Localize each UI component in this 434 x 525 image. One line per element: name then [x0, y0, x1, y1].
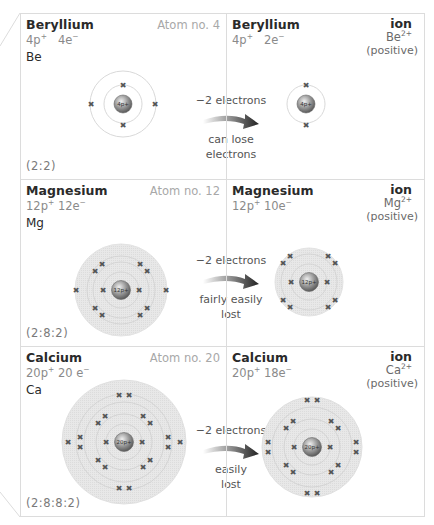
svg-text:✖: ✖ — [102, 412, 109, 421]
svg-text:✖: ✖ — [165, 443, 172, 452]
bohr-model-atom: 20p+ ✖ ✖ ✖ ✖ ✖ ✖ ✖ ✖ ✖ ✖ ✖ ✖ — [59, 377, 189, 507]
bohr-model-ion: 12p+ ✖ ✖ ✖ ✖ ✖ ✖ ✖ ✖ ✖ ✖ — [269, 242, 349, 322]
ion-symbol: Mg2+ — [366, 197, 418, 210]
svg-text:✖: ✖ — [283, 461, 290, 470]
ion-charge-type: (positive) — [366, 211, 418, 224]
svg-text:12p+: 12p+ — [301, 279, 316, 286]
proton-count: 12p — [26, 199, 48, 213]
svg-text:4p+: 4p+ — [300, 101, 312, 108]
svg-text:✖: ✖ — [144, 267, 151, 276]
svg-text:✖: ✖ — [77, 433, 84, 442]
ion-charge-type: (positive) — [366, 378, 418, 391]
electron-charge: − — [278, 32, 284, 41]
ion-element-symbol: Mg — [384, 196, 401, 210]
svg-text:✖: ✖ — [77, 443, 84, 452]
electron-count: 12e — [58, 199, 80, 213]
svg-text:✖: ✖ — [290, 417, 297, 426]
bohr-model-atom: 4p+ ✖ ✖ ✖ ✖ — [73, 69, 173, 139]
electron-count: 10e — [264, 199, 286, 213]
electron-charge: − — [80, 198, 86, 207]
svg-text:✖: ✖ — [116, 391, 123, 400]
svg-text:✖: ✖ — [303, 81, 310, 90]
svg-text:✖: ✖ — [280, 259, 287, 268]
svg-text:✖: ✖ — [116, 484, 123, 493]
svg-text:✖: ✖ — [304, 396, 311, 405]
svg-text:✖: ✖ — [100, 286, 107, 295]
element-name: Calcium — [232, 350, 288, 365]
svg-text:✖: ✖ — [335, 424, 342, 433]
proton-count: 4p — [26, 33, 41, 47]
ion-info: ion Be2+ (positive) — [366, 17, 418, 57]
svg-text:✖: ✖ — [283, 424, 290, 433]
svg-text:✖: ✖ — [353, 448, 360, 457]
proton-count: 20p — [26, 366, 48, 380]
particle-counts: 4p+ 2e− — [232, 33, 285, 47]
comparison-table: Beryllium Atom no. 4 4p+ 4e− Be (2:2) 4p… — [20, 13, 425, 517]
ion-charge-type: (positive) — [366, 45, 418, 58]
proton-count: 12p — [232, 199, 254, 213]
svg-text:✖: ✖ — [139, 438, 146, 447]
electron-configuration: (2:2) — [26, 159, 56, 173]
proton-charge: + — [48, 365, 54, 374]
svg-text:✖: ✖ — [92, 304, 99, 313]
svg-text:✖: ✖ — [88, 100, 95, 109]
svg-text:✖: ✖ — [324, 278, 331, 287]
svg-text:✖: ✖ — [136, 286, 143, 295]
svg-text:✖: ✖ — [177, 438, 184, 447]
svg-text:✖: ✖ — [303, 121, 310, 130]
electron-charge: − — [83, 365, 89, 374]
proton-charge: + — [254, 198, 260, 207]
svg-text:✖: ✖ — [304, 489, 311, 498]
element-name: Calcium — [26, 350, 82, 365]
element-symbol: Mg — [26, 216, 44, 230]
svg-text:✖: ✖ — [103, 438, 110, 447]
ion-charge: 2+ — [401, 195, 412, 204]
electron-charge: − — [286, 365, 292, 374]
ion-cell-magnesium: Magnesium 12p+ 10e− ion Mg2+ (positive) … — [226, 179, 424, 346]
svg-text:✖: ✖ — [140, 463, 147, 472]
svg-text:✖: ✖ — [335, 461, 342, 470]
svg-text:✖: ✖ — [314, 489, 321, 498]
bohr-model-ion: 20p+ ✖ ✖ ✖ ✖ ✖ ✖ ✖ ✖ ✖ ✖ ✖ ✖ ✖ ✖ ✖ — [257, 392, 367, 502]
svg-text:✖: ✖ — [265, 438, 272, 447]
svg-text:✖: ✖ — [92, 267, 99, 276]
svg-text:✖: ✖ — [126, 391, 133, 400]
electron-count: 4e — [58, 33, 72, 47]
element-name: Beryllium — [232, 17, 300, 32]
svg-text:✖: ✖ — [328, 417, 335, 426]
svg-text:✖: ✖ — [95, 456, 102, 465]
atom-number: Atom no. 4 — [157, 18, 220, 32]
svg-text:✖: ✖ — [325, 303, 332, 312]
ion-cell-beryllium: Beryllium 4p+ 2e− ion Be2+ (positive) 4p… — [226, 14, 424, 179]
ion-element-symbol: Be — [386, 30, 401, 44]
svg-text:✖: ✖ — [73, 286, 80, 295]
svg-text:✖: ✖ — [120, 121, 127, 130]
svg-text:✖: ✖ — [137, 311, 144, 320]
particle-counts: 12p+ 10e− — [232, 199, 292, 213]
svg-text:✖: ✖ — [327, 443, 334, 452]
ion-cell-calcium: Calcium 20p+ 18e− ion Ca2+ (positive) 20… — [226, 346, 424, 516]
proton-count: 4p — [232, 33, 247, 47]
svg-text:20p+: 20p+ — [304, 444, 319, 451]
element-symbol: Ca — [26, 383, 42, 397]
proton-charge: + — [247, 32, 253, 41]
svg-text:✖: ✖ — [280, 296, 287, 305]
svg-text:✖: ✖ — [140, 412, 147, 421]
svg-text:✖: ✖ — [287, 252, 294, 261]
electron-charge: − — [72, 32, 78, 41]
bohr-model-atom: 12p+ ✖ ✖ ✖ ✖ ✖ ✖ ✖ ✖ ✖ ✖ ✖ ✖ — [66, 235, 176, 345]
svg-text:✖: ✖ — [325, 252, 332, 261]
proton-charge: + — [48, 198, 54, 207]
svg-text:✖: ✖ — [137, 260, 144, 269]
svg-text:✖: ✖ — [126, 484, 133, 493]
svg-text:✖: ✖ — [265, 448, 272, 457]
ion-charge: 2+ — [401, 362, 412, 371]
svg-text:✖: ✖ — [95, 419, 102, 428]
particle-counts: 12p+ 12e− — [26, 199, 86, 213]
svg-text:✖: ✖ — [99, 260, 106, 269]
svg-text:✖: ✖ — [163, 286, 170, 295]
svg-text:20p+: 20p+ — [116, 439, 131, 446]
ion-symbol: Ca2+ — [366, 364, 418, 377]
atom-number: Atom no. 12 — [150, 184, 220, 198]
svg-text:✖: ✖ — [147, 456, 154, 465]
